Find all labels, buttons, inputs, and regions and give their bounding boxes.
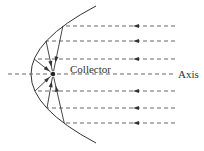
collector-point bbox=[51, 72, 55, 76]
incoming-arrow-icon bbox=[133, 121, 139, 125]
axis-label: Axis bbox=[178, 68, 199, 80]
reflected-arrow-icon bbox=[55, 86, 59, 92]
incoming-arrow-icon bbox=[133, 24, 139, 28]
incoming-arrow-icon bbox=[133, 106, 139, 110]
incoming-arrow-icon bbox=[133, 89, 139, 93]
incoming-arrow-icon bbox=[133, 57, 139, 61]
reflected-arrow-icon bbox=[49, 81, 53, 87]
parabolic-reflector-diagram: Collector Axis bbox=[0, 0, 204, 151]
collector-label: Collector bbox=[70, 63, 111, 75]
incoming-arrow-icon bbox=[133, 39, 139, 43]
